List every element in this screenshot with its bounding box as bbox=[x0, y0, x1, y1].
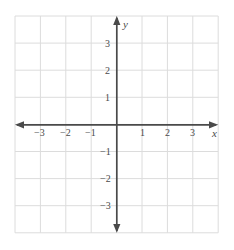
y-tick-label: −1 bbox=[100, 147, 111, 157]
coordinate-plane-canvas bbox=[0, 0, 234, 250]
y-tick-label: 1 bbox=[105, 93, 110, 103]
y-tick-label: −3 bbox=[100, 201, 111, 211]
x-tick-label: −1 bbox=[85, 128, 96, 138]
y-tick-label: 2 bbox=[105, 66, 110, 76]
y-axis-label: y bbox=[123, 19, 128, 30]
y-axis-arrow-down-icon bbox=[113, 224, 120, 233]
x-tick-label: 1 bbox=[140, 128, 145, 138]
x-tick-label: −2 bbox=[60, 128, 71, 138]
y-tick-label: −2 bbox=[100, 174, 111, 184]
y-axis-arrow-up-icon bbox=[113, 16, 120, 25]
y-tick-label: 3 bbox=[105, 39, 110, 49]
x-tick-label: 2 bbox=[165, 128, 170, 138]
coordinate-plane: −3 −2 −1 1 2 3 3 2 1 −1 −2 −3 x y bbox=[0, 0, 234, 250]
x-tick-label: −3 bbox=[34, 128, 45, 138]
x-axis-label: x bbox=[212, 128, 217, 139]
x-tick-label: 3 bbox=[190, 128, 195, 138]
x-axis-arrow-left-icon bbox=[15, 121, 24, 128]
